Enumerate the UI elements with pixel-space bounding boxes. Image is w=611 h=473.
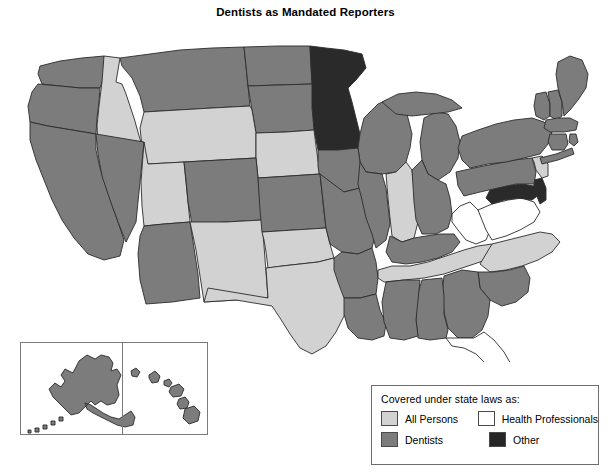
- state-MA[interactable]: [544, 118, 578, 132]
- dentists-swatch: [381, 432, 398, 447]
- page-title: Dentists as Mandated Reporters: [0, 6, 611, 18]
- legend-label: Other: [513, 434, 539, 446]
- state-CO[interactable]: [184, 158, 262, 224]
- aleutian-islands: [28, 417, 63, 433]
- state-ND[interactable]: [244, 46, 312, 86]
- legend-entry-health-professionals[interactable]: Health Professionals: [478, 411, 598, 426]
- state-HI[interactable]: [131, 368, 200, 424]
- legend-label: All Persons: [405, 413, 458, 425]
- legend-label: Health Professionals: [502, 413, 598, 425]
- legend-label: Dentists: [405, 434, 443, 446]
- us-map-container: [0, 22, 611, 362]
- state-MT[interactable]: [120, 47, 250, 112]
- state-MS[interactable]: [382, 280, 420, 340]
- state-CT[interactable]: [548, 134, 568, 150]
- legend-entry-all-persons[interactable]: All Persons: [381, 411, 478, 426]
- legend-row: Dentists Other: [381, 432, 598, 447]
- other-swatch: [489, 432, 506, 447]
- legend-entry-other[interactable]: Other: [489, 432, 539, 447]
- us-map-svg: [0, 22, 611, 362]
- health-professionals-swatch: [478, 411, 495, 426]
- legend: Covered under state laws as: All Persons…: [371, 385, 599, 465]
- state-MN[interactable]: [310, 46, 366, 150]
- state-VT[interactable]: [534, 92, 550, 120]
- state-NM[interactable]: [190, 220, 268, 302]
- legend-title: Covered under state laws as:: [381, 393, 598, 405]
- state-AL[interactable]: [416, 278, 448, 340]
- inset-panel-container: [20, 342, 208, 435]
- legend-entries: All Persons Health Professionals Dentist…: [381, 411, 598, 447]
- legend-entry-dentists[interactable]: Dentists: [381, 432, 489, 447]
- state-WY[interactable]: [140, 106, 256, 164]
- state-NE[interactable]: [256, 130, 320, 178]
- state-AZ[interactable]: [138, 222, 200, 304]
- state-MI-up[interactable]: [382, 92, 462, 116]
- inset-svg: [21, 343, 207, 434]
- state-KS[interactable]: [258, 174, 326, 232]
- all-persons-swatch: [381, 411, 398, 426]
- state-DE[interactable]: [534, 178, 546, 204]
- legend-row: All Persons Health Professionals: [381, 411, 598, 426]
- state-SD[interactable]: [248, 84, 314, 133]
- state-RI[interactable]: [569, 134, 578, 146]
- state-WA[interactable]: [38, 56, 106, 88]
- state-LA[interactable]: [344, 294, 386, 340]
- inset-divider: [122, 343, 123, 434]
